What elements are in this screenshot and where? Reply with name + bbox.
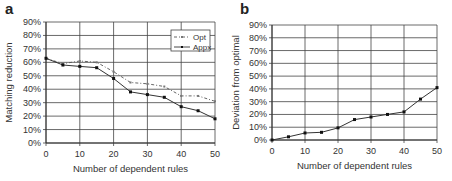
y-tick-label: 90% bbox=[23, 17, 41, 27]
data-point bbox=[45, 57, 48, 60]
chart-panel-a: a 0%10%20%30%40%50%60%70%80%90%010203040… bbox=[0, 0, 226, 181]
data-point bbox=[214, 117, 217, 120]
legend-label-opt: Opt bbox=[193, 33, 207, 42]
y-tick-label: 80% bbox=[23, 30, 41, 40]
x-tick-label: 20 bbox=[333, 146, 343, 156]
data-point bbox=[370, 116, 373, 119]
data-point bbox=[197, 109, 200, 112]
data-point bbox=[146, 93, 149, 96]
y-tick-label: 40% bbox=[23, 84, 41, 94]
data-point bbox=[436, 86, 439, 89]
data-point bbox=[320, 131, 323, 134]
x-tick-label: 50 bbox=[210, 149, 220, 159]
data-point bbox=[61, 64, 64, 67]
data-point bbox=[386, 113, 389, 116]
y-tick-label: 70% bbox=[23, 44, 41, 54]
data-point bbox=[78, 65, 81, 68]
y-tick-label: 10% bbox=[249, 122, 267, 132]
matching-reduction-chart: 0%10%20%30%40%50%60%70%80%90%01020304050… bbox=[0, 0, 226, 181]
data-point bbox=[287, 135, 290, 138]
y-tick-label: 30% bbox=[23, 98, 41, 108]
y-tick-label: 20% bbox=[249, 109, 267, 119]
data-point bbox=[79, 60, 81, 62]
x-tick-label: 0 bbox=[269, 146, 274, 156]
y-tick-label: 50% bbox=[23, 71, 41, 81]
y-tick-label: 60% bbox=[249, 58, 267, 68]
data-point bbox=[403, 110, 406, 113]
y-tick-label: 10% bbox=[23, 125, 41, 135]
data-point bbox=[271, 139, 274, 142]
data-point bbox=[180, 105, 183, 108]
y-tick-label: 90% bbox=[249, 20, 267, 30]
x-tick-label: 0 bbox=[43, 149, 48, 159]
y-axis-label: Deviation from optimal bbox=[230, 35, 241, 130]
data-point bbox=[163, 86, 165, 88]
series-line-opt bbox=[46, 58, 215, 101]
data-point bbox=[337, 126, 340, 129]
series-line-appx bbox=[46, 58, 215, 119]
data-point bbox=[353, 118, 356, 121]
x-tick-label: 10 bbox=[75, 149, 85, 159]
data-point bbox=[163, 96, 166, 99]
x-tick-label: 20 bbox=[109, 149, 119, 159]
x-tick-label: 40 bbox=[176, 149, 186, 159]
legend: OptAppx bbox=[171, 30, 211, 52]
data-point bbox=[113, 71, 115, 73]
data-point bbox=[95, 66, 98, 69]
series-line-deviation bbox=[272, 88, 437, 140]
data-point bbox=[146, 83, 148, 85]
data-point bbox=[419, 98, 422, 101]
y-tick-label: 30% bbox=[249, 97, 267, 107]
data-point bbox=[304, 131, 307, 134]
deviation-from-optimal-chart: 0%10%20%30%40%50%60%70%80%90%01020304050… bbox=[226, 0, 452, 181]
data-point bbox=[129, 90, 132, 93]
y-tick-label: 80% bbox=[249, 33, 267, 43]
data-point bbox=[130, 82, 132, 84]
chart-panel-b: b 0%10%20%30%40%50%60%70%80%90%010203040… bbox=[226, 0, 452, 181]
x-tick-label: 30 bbox=[366, 146, 376, 156]
x-tick-label: 10 bbox=[300, 146, 310, 156]
y-tick-label: 20% bbox=[23, 111, 41, 121]
x-axis-label: Number of dependent rules bbox=[297, 160, 412, 171]
x-tick-label: 30 bbox=[142, 149, 152, 159]
x-tick-label: 40 bbox=[399, 146, 409, 156]
x-tick-label: 50 bbox=[432, 146, 442, 156]
y-tick-label: 0% bbox=[28, 138, 41, 148]
data-point bbox=[214, 100, 216, 102]
y-tick-label: 40% bbox=[249, 84, 267, 94]
data-point bbox=[112, 77, 115, 80]
y-tick-label: 60% bbox=[23, 57, 41, 67]
data-point bbox=[197, 95, 199, 97]
data-point bbox=[96, 61, 98, 63]
x-axis-label: Number of dependent rules bbox=[73, 163, 188, 174]
y-tick-label: 0% bbox=[254, 135, 267, 145]
y-tick-label: 70% bbox=[249, 46, 267, 56]
data-point bbox=[180, 95, 182, 97]
y-tick-label: 50% bbox=[249, 71, 267, 81]
legend-label-appx: Appx bbox=[193, 43, 211, 52]
y-axis-label: Matching reduction bbox=[3, 42, 14, 122]
